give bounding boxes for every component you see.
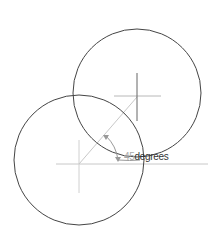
angle-arc [106,136,118,160]
angle-label: 45degrees [124,151,169,162]
geometry-diagram [0,0,220,249]
angle-value: 45 [124,151,135,162]
angle-unit: degrees [135,151,169,162]
arc-arrow-end-icon [115,157,121,162]
